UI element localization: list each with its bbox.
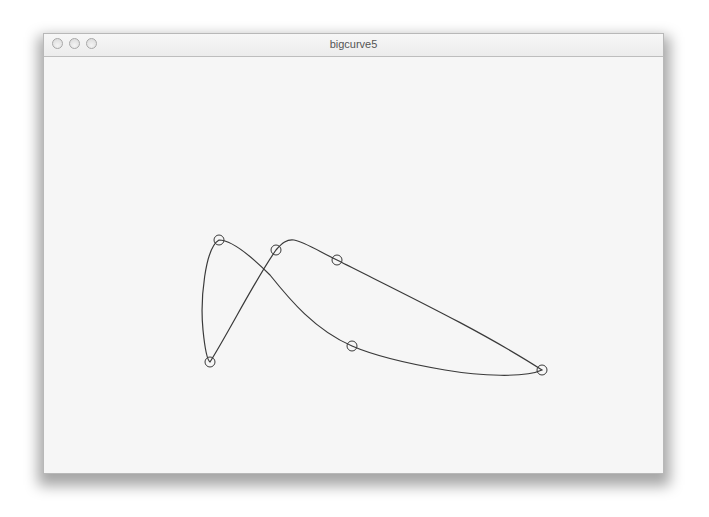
closed-curve (202, 240, 542, 375)
curve-drawing (0, 0, 709, 517)
